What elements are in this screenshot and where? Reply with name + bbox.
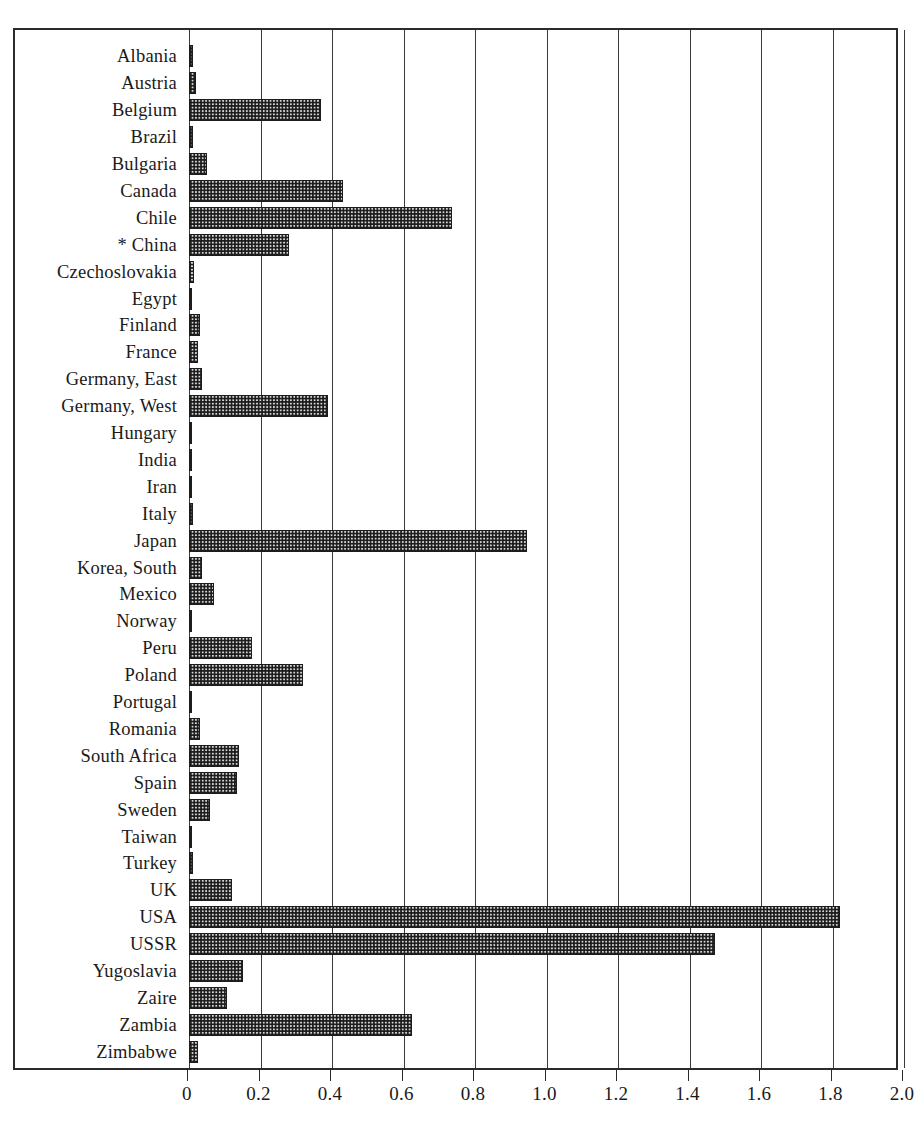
- bar-row: France: [15, 339, 896, 366]
- bar-row: Zaire: [15, 985, 896, 1012]
- bar-chile: [189, 207, 452, 229]
- bar-belgium: [189, 99, 321, 121]
- bar-row: USA: [15, 904, 896, 931]
- x-tick-label-1.8: 1.8: [818, 1084, 843, 1103]
- bar-bulgaria: [189, 153, 207, 175]
- bar-row: Hungary: [15, 420, 896, 447]
- category-label-zimbabwe: Zimbabwe: [0, 1042, 177, 1061]
- bar-rows: AlbaniaAustriaBelgiumBrazilBulgariaCanad…: [15, 30, 896, 1068]
- bar-china: [189, 234, 289, 256]
- cropped-title-remnant: [30, 0, 630, 8]
- x-axis-ticks: [13, 1070, 898, 1082]
- category-label-brazil: Brazil: [0, 128, 177, 147]
- category-label-belgium: Belgium: [0, 101, 177, 120]
- category-label-hungary: Hungary: [0, 424, 177, 443]
- bar-south-africa: [189, 745, 239, 767]
- bar-spain: [189, 772, 237, 794]
- x-tick-0: [187, 1070, 188, 1081]
- x-tick-label-0.8: 0.8: [461, 1084, 486, 1103]
- bar-row: Portugal: [15, 689, 896, 716]
- category-label-sweden: Sweden: [0, 800, 177, 819]
- category-label-taiwan: Taiwan: [0, 827, 177, 846]
- bar-row: Sweden: [15, 796, 896, 823]
- category-label-zambia: Zambia: [0, 1016, 177, 1035]
- x-tick-0.8: [473, 1070, 474, 1081]
- category-label-bulgaria: Bulgaria: [0, 155, 177, 174]
- category-label-poland: Poland: [0, 666, 177, 685]
- bar-taiwan: [189, 826, 192, 848]
- bar-row: Korea, South: [15, 554, 896, 581]
- category-label-india: India: [0, 451, 177, 470]
- bar-yugoslavia: [189, 960, 243, 982]
- category-label-albania: Albania: [0, 47, 177, 66]
- bar-row: Belgium: [15, 97, 896, 124]
- x-axis-labels: 00.20.40.60.81.01.21.41.61.82.0: [13, 1084, 898, 1114]
- bar-france: [189, 341, 198, 363]
- x-tick-label-0: 0: [182, 1084, 192, 1103]
- bar-row: USSR: [15, 931, 896, 958]
- bar-row: Turkey: [15, 850, 896, 877]
- category-label-iran: Iran: [0, 478, 177, 497]
- bar-row: Zambia: [15, 1011, 896, 1038]
- bar-row: Finland: [15, 312, 896, 339]
- bar-row: Taiwan: [15, 823, 896, 850]
- x-tick-label-1.6: 1.6: [747, 1084, 772, 1103]
- x-tick-2.0: [902, 1070, 903, 1081]
- x-tick-0.2: [259, 1070, 260, 1081]
- bar-row: UK: [15, 877, 896, 904]
- bar-turkey: [189, 852, 193, 874]
- category-label-spain: Spain: [0, 773, 177, 792]
- category-label-egypt: Egypt: [0, 289, 177, 308]
- bar-row: Poland: [15, 662, 896, 689]
- bar-germany-east: [189, 368, 202, 390]
- bar-row: Germany, East: [15, 366, 896, 393]
- category-label-ussr: USSR: [0, 935, 177, 954]
- category-label-canada: Canada: [0, 182, 177, 201]
- bar-hungary: [189, 422, 192, 444]
- x-tick-1.4: [688, 1070, 689, 1081]
- category-label-mexico: Mexico: [0, 585, 177, 604]
- bar-row: Germany, West: [15, 393, 896, 420]
- bar-india: [189, 449, 192, 471]
- x-tick-0.4: [330, 1070, 331, 1081]
- bar-row: Italy: [15, 500, 896, 527]
- x-tick-label-0.2: 0.2: [246, 1084, 271, 1103]
- bar-peru: [189, 637, 252, 659]
- bar-brazil: [189, 126, 193, 148]
- x-tick-0.6: [402, 1070, 403, 1081]
- bar-row: Mexico: [15, 581, 896, 608]
- x-tick-label-1.0: 1.0: [532, 1084, 557, 1103]
- bar-row: Albania: [15, 43, 896, 70]
- bar-zaire: [189, 987, 227, 1009]
- bar-row: Iran: [15, 473, 896, 500]
- bar-row: Brazil: [15, 124, 896, 151]
- bar-row: India: [15, 447, 896, 474]
- bar-zambia: [189, 1014, 412, 1036]
- category-label-yugoslavia: Yugoslavia: [0, 962, 177, 981]
- bar-row: Japan: [15, 527, 896, 554]
- category-label-turkey: Turkey: [0, 854, 177, 873]
- bar-portugal: [189, 691, 192, 713]
- category-label-japan: Japan: [0, 531, 177, 550]
- bar-poland: [189, 664, 303, 686]
- bar-sweden: [189, 799, 210, 821]
- bar-chart: AlbaniaAustriaBelgiumBrazilBulgariaCanad…: [0, 0, 919, 1137]
- x-tick-1.6: [759, 1070, 760, 1081]
- category-label-uk: UK: [0, 881, 177, 900]
- x-tick-label-1.2: 1.2: [604, 1084, 629, 1103]
- category-label-austria: Austria: [0, 74, 177, 93]
- bar-usa: [189, 906, 840, 928]
- bar-row: Canada: [15, 178, 896, 205]
- bar-mexico: [189, 583, 214, 605]
- category-label-norway: Norway: [0, 612, 177, 631]
- bar-row: Romania: [15, 716, 896, 743]
- category-label-china: * China: [0, 235, 177, 254]
- bar-row: Zimbabwe: [15, 1038, 896, 1065]
- category-label-germany-west: Germany, West: [0, 397, 177, 416]
- category-label-zaire: Zaire: [0, 989, 177, 1008]
- bar-canada: [189, 180, 343, 202]
- x-tick-label-2.0: 2.0: [890, 1084, 915, 1103]
- bar-iran: [189, 476, 192, 498]
- bar-row: Norway: [15, 608, 896, 635]
- category-label-portugal: Portugal: [0, 693, 177, 712]
